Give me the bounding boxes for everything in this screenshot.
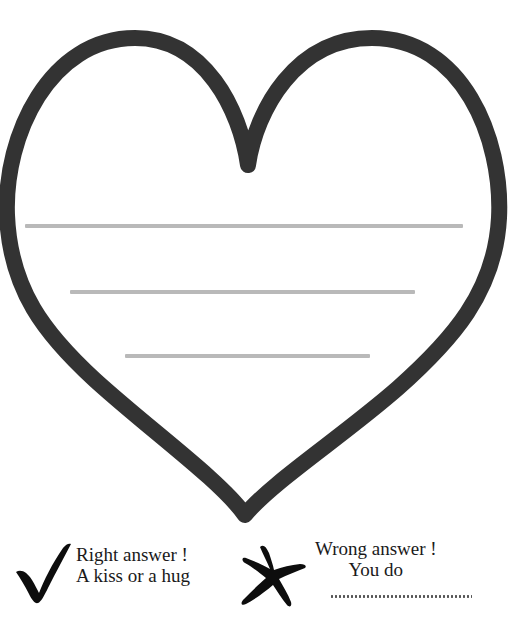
answer-key: Right answer ! A kiss or a hug Wrong ans… [0,528,524,643]
right-answer-block: Right answer ! A kiss or a hug [14,538,190,604]
writing-line-1 [25,224,463,228]
right-answer-text: Right answer ! A kiss or a hug [76,538,190,586]
right-answer-line-2: A kiss or a hug [76,565,190,586]
heart-card [0,0,524,528]
heart-outline-icon [0,0,524,528]
checkmark-icon [14,542,72,604]
wrong-answer-line-2: You do [315,559,437,580]
writing-line-2 [70,290,415,294]
fill-in-dotted-line [330,594,472,599]
writing-line-3 [125,354,370,358]
wrong-answer-line-1: Wrong answer ! [315,538,437,559]
right-answer-line-1: Right answer ! [76,544,190,565]
wrong-answer-text: Wrong answer ! You do [315,532,437,580]
worksheet-page: Right answer ! A kiss or a hug Wrong ans… [0,0,524,643]
cross-x-icon [233,542,307,608]
